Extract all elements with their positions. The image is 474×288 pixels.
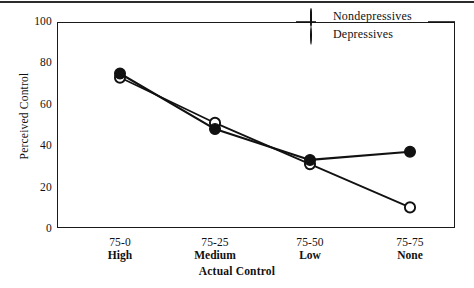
filled-circle-icon [310, 9, 324, 23]
data-point-nondepressives-1 [115, 68, 126, 79]
figure: 100 80 60 40 20 0 Perceived Control [0, 0, 474, 288]
data-point-nondepressives-3 [305, 155, 316, 166]
x-tick-name-4: None [364, 249, 456, 262]
data-point-depressives-4 [405, 202, 415, 212]
x-tick-label-3: 75-50 Low [264, 236, 356, 262]
x-tick-label-2: 75-25 Medium [169, 236, 261, 262]
data-point-nondepressives-4 [405, 146, 416, 157]
data-point-nondepressives-2 [210, 124, 221, 135]
x-tick-name-2: Medium [169, 249, 261, 262]
x-tick-code-4: 75-75 [364, 236, 456, 249]
legend-item-depressives: Depressives [310, 25, 470, 43]
series-line-depressives [120, 78, 410, 208]
chart-legend: Nondepressives Depressives [310, 7, 470, 43]
legend-label-nondepressives: Nondepressives [333, 9, 412, 24]
legend-label-depressives: Depressives [333, 27, 393, 42]
x-tick-label-4: 75-75 None [364, 236, 456, 262]
x-tick-label-1: 75-0 High [74, 236, 166, 262]
legend-item-nondepressives: Nondepressives [310, 7, 470, 25]
x-tick-name-1: High [74, 249, 166, 262]
x-tick-name-3: Low [264, 249, 356, 262]
x-tick-code-3: 75-50 [264, 236, 356, 249]
x-tick-code-1: 75-0 [74, 236, 166, 249]
x-axis-title: Actual Control [0, 265, 474, 277]
open-circle-icon [310, 27, 324, 41]
x-tick-code-2: 75-25 [169, 236, 261, 249]
series-line-nondepressives [120, 74, 410, 160]
